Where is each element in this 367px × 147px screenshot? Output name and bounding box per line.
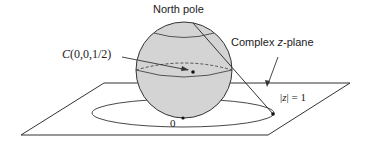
plane-label-arrow: [268, 57, 278, 84]
plane-label-prefix: Complex: [231, 36, 277, 48]
origin-label: 0: [170, 117, 176, 129]
center-label: C(0,0,1/2): [62, 47, 111, 61]
unit-circle-close: | = 1: [286, 91, 305, 103]
north-pole-label: North pole: [153, 3, 204, 15]
center-point: [191, 70, 195, 74]
plane-label: Complex z-plane: [231, 36, 314, 48]
riemann-sphere-diagram: North pole C(0,0,1/2) Complex z-plane |z…: [0, 0, 367, 147]
unit-circle-point: [271, 112, 275, 116]
origin-point: [181, 116, 184, 119]
center-label-coords: (0,0,1/2): [70, 47, 111, 61]
unit-circle-label: |z| = 1: [280, 91, 306, 103]
plane-label-suffix: -plane: [283, 36, 314, 48]
